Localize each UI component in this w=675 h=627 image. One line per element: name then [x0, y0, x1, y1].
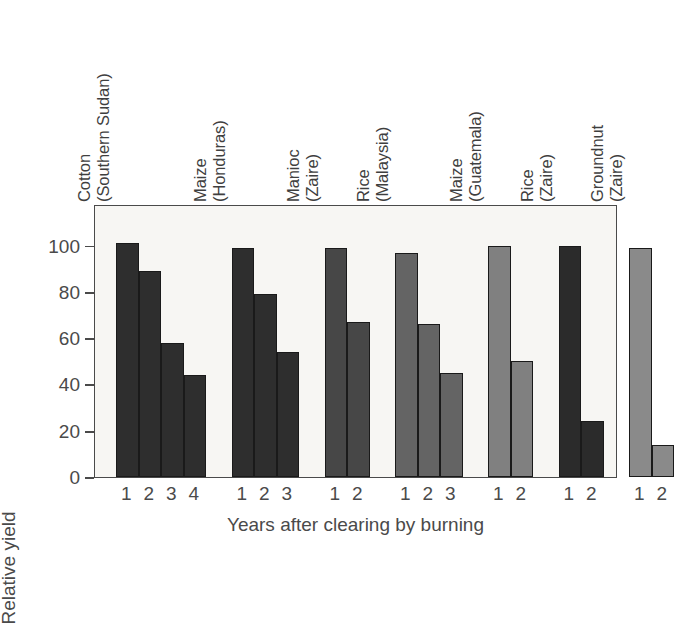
group-header-crop: Cotton	[75, 73, 94, 202]
y-axis: Relative yield 020406080100	[0, 205, 94, 485]
bar	[254, 294, 277, 477]
y-tick-label: 100	[48, 235, 80, 258]
y-tick-label: 0	[69, 466, 80, 489]
bar	[116, 243, 139, 477]
group-header-place: (Southern Sudan)	[94, 73, 113, 202]
y-tick-label: 60	[59, 327, 80, 350]
bar	[184, 375, 207, 477]
group-header-crop: Maize	[191, 120, 210, 202]
group-header-crop: Rice	[354, 127, 373, 202]
group-header-place: (Guatemala)	[466, 111, 485, 202]
x-tick-label: 3	[274, 482, 301, 505]
bar	[652, 445, 675, 477]
group-header-place: (Honduras)	[210, 120, 229, 202]
group-header-crop: Manioc	[284, 149, 303, 202]
y-tick-mark	[85, 292, 94, 294]
group-header-row: Cotton(Southern Sudan)Maize(Honduras)Man…	[0, 0, 636, 205]
bar	[629, 248, 652, 477]
bar	[139, 271, 162, 477]
bar	[325, 248, 348, 477]
group-header-place: (Zaire)	[303, 149, 322, 202]
y-tick-label: 20	[59, 420, 80, 443]
x-tick-label: 4	[181, 482, 208, 505]
y-tick-mark	[85, 431, 94, 433]
group-header-crop: Maize	[447, 111, 466, 202]
bar	[418, 324, 441, 477]
bar	[488, 246, 511, 477]
bar	[161, 343, 184, 477]
y-tick-mark	[85, 246, 94, 248]
y-tick-mark	[85, 338, 94, 340]
bar	[347, 322, 370, 477]
plot-area	[95, 206, 616, 477]
plot-frame	[94, 205, 617, 478]
group-header-place: (Malaysia)	[373, 127, 392, 202]
bar	[232, 248, 255, 477]
bar	[559, 246, 582, 477]
group-header-place: (Zaire)	[537, 154, 556, 202]
y-tick-mark	[85, 477, 94, 479]
x-tick-label: 2	[578, 482, 605, 505]
y-tick-mark	[85, 384, 94, 386]
group-header-place: (Zaire)	[607, 125, 626, 202]
x-tick-label: 3	[437, 482, 464, 505]
x-tick-label: 2	[344, 482, 371, 505]
x-axis-tick-labels: 123412312123121212	[94, 482, 617, 510]
group-header-crop: Rice	[518, 154, 537, 202]
bar	[440, 373, 463, 477]
bar	[277, 352, 300, 477]
bar	[395, 253, 418, 477]
y-tick-label: 40	[59, 373, 80, 396]
bar	[581, 421, 604, 477]
group-header-crop: Groundnut	[588, 125, 607, 202]
x-axis-title: Years after clearing by burning	[94, 514, 617, 536]
y-tick-label: 80	[59, 281, 80, 304]
y-axis-title: Relative yield	[0, 448, 20, 627]
x-tick-label: 2	[508, 482, 535, 505]
bar	[511, 361, 534, 477]
x-tick-label: 2	[649, 482, 675, 505]
